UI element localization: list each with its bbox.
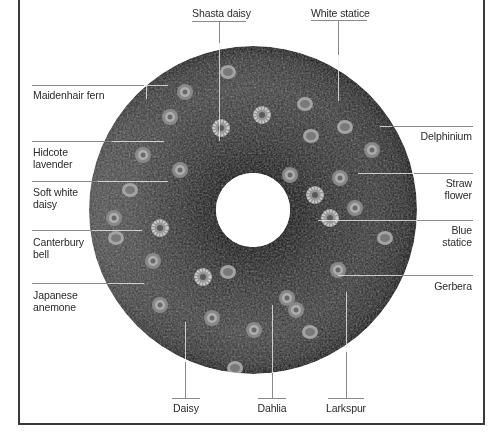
label-line: anemone: [33, 301, 78, 313]
label-line: Japanese: [33, 289, 78, 301]
leader-larkspur-inner: [346, 292, 347, 352]
label-line: bell: [33, 248, 84, 260]
leader-shasta-daisy-inner: [219, 43, 220, 141]
label-line: Straw: [445, 177, 472, 189]
label-blue-statice: Blue statice: [442, 224, 472, 248]
label-daisy: Daisy: [168, 402, 204, 414]
leader-daisy: [185, 362, 186, 398]
label-straw-flower: Straw flower: [445, 177, 472, 201]
leader-soft-white-daisy-inner: [98, 181, 168, 182]
label-white-statice: White statice: [311, 7, 367, 19]
leader-hidcote-lavender-inner: [112, 141, 164, 142]
label-japanese-anemone: Japanese anemone: [33, 289, 78, 313]
leader-daisy-inner: [185, 322, 186, 362]
leader-gerbera: [402, 275, 473, 276]
leader-dahlia: [272, 373, 273, 398]
leader-white-statice: [338, 20, 339, 55]
label-gerbera: Gerbera: [434, 280, 472, 292]
label-line: Hidcote: [33, 146, 72, 158]
label-dahlia: Dahlia: [254, 402, 290, 414]
leader-canterbury-bell-inner: [92, 230, 142, 231]
label-line: lavender: [33, 158, 72, 170]
leader-japanese-anemone: [32, 283, 108, 284]
underline-larkspur: [328, 398, 364, 399]
label-canterbury-bell: Canterbury bell: [33, 236, 84, 260]
leader-japanese-anemone-inner: [108, 283, 144, 284]
leader-straw-flower-inner: [358, 173, 414, 174]
leader-hidcote-lavender: [32, 141, 112, 142]
leader-larkspur: [346, 352, 347, 398]
leader-maidenhair-fern-inner: [144, 85, 168, 86]
leader-soft-white-daisy: [32, 181, 98, 182]
leader-straw-flower: [414, 173, 473, 174]
leader-canterbury-bell: [32, 230, 92, 231]
label-line: Canterbury: [33, 236, 84, 248]
label-delphinium: Delphinium: [420, 130, 472, 142]
label-line: statice: [442, 236, 472, 248]
underline-dahlia: [258, 398, 286, 399]
leader-blue-statice-inner: [318, 220, 417, 221]
label-larkspur: Larkspur: [324, 402, 368, 414]
label-hidcote-lavender: Hidcote lavender: [33, 146, 72, 170]
underline-daisy: [172, 398, 200, 399]
label-soft-white-daisy: Soft white daisy: [33, 186, 78, 210]
label-line: daisy: [33, 198, 78, 210]
leader-delphinium-inner: [380, 126, 392, 127]
leader-white-statice-inner: [338, 55, 339, 101]
leader-delphinium: [392, 126, 473, 127]
leader-gerbera-inner: [338, 275, 402, 276]
label-line: Blue: [442, 224, 472, 236]
leader-dahlia-inner: [272, 305, 273, 373]
leader-shasta-daisy: [219, 21, 220, 43]
label-maidenhair-fern: Maidenhair fern: [33, 89, 104, 101]
label-line: Soft white: [33, 186, 78, 198]
leader-blue-statice: [417, 220, 473, 221]
label-line: flower: [445, 189, 472, 201]
label-shasta-daisy: Shasta daisy: [192, 7, 246, 19]
leader-maidenhair-fern-drop: [146, 85, 147, 99]
leader-maidenhair-fern: [32, 85, 144, 86]
underline-white-statice: [311, 20, 367, 21]
